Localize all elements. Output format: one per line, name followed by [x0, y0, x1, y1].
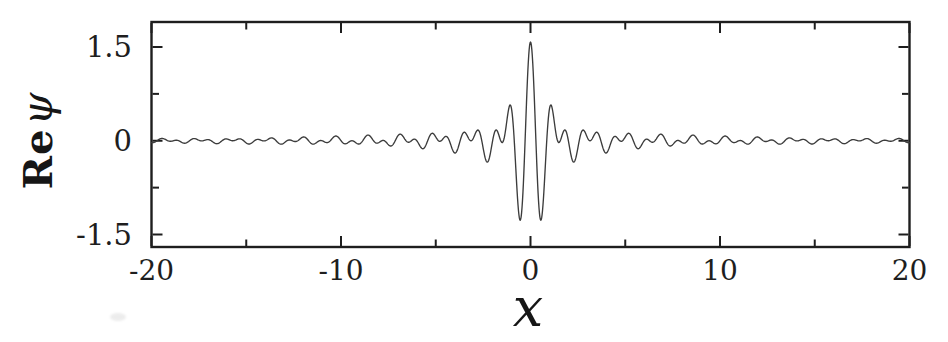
y-tick-label: 1.5 [12, 33, 132, 62]
x-tick-label: -20 [129, 257, 174, 285]
wave-packet-plot [0, 0, 948, 342]
x-tick-label: 10 [702, 257, 738, 285]
psi-symbol: ψ [13, 93, 62, 126]
scan-smudge [110, 313, 126, 321]
figure: -20-10010201.50-1.5 Reψ x [0, 0, 948, 342]
x-tick-label: 20 [892, 257, 928, 285]
x-tick-label: -10 [318, 257, 363, 285]
plot-frame [152, 22, 910, 247]
x-axis-title: x [513, 281, 543, 335]
y-axis-title-re: Re [14, 129, 61, 190]
y-axis-title: Reψ [17, 93, 59, 190]
repsi-curve [152, 42, 910, 220]
y-tick-label: -1.5 [12, 220, 132, 249]
